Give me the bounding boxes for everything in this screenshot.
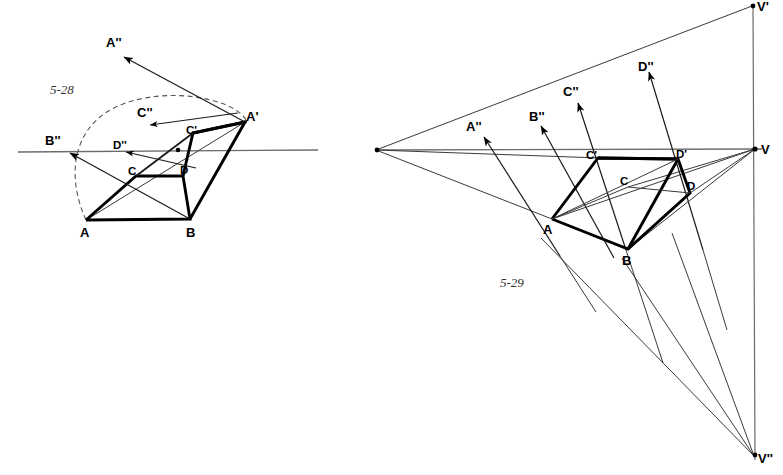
ray-Ddprime-extension bbox=[703, 250, 727, 330]
label-A-dprime-left: A'' bbox=[106, 35, 122, 50]
label-D-prime-right: D' bbox=[676, 148, 687, 160]
vanishing-point-Vdprime-dot bbox=[753, 453, 758, 458]
label-A-prime-left: A' bbox=[246, 109, 258, 124]
label-V-dprime: V'' bbox=[758, 451, 773, 466]
label-D-left: D bbox=[180, 164, 188, 176]
figure-5-28-group: A B C D A' C' A'' B'' C'' D'' 5-28 bbox=[18, 35, 318, 240]
figure-number-5-28: 5-28 bbox=[50, 82, 74, 97]
label-C-dprime-left: C'' bbox=[137, 105, 153, 120]
label-C-prime-left: C' bbox=[186, 124, 197, 136]
label-C-left: C bbox=[128, 165, 136, 177]
converge-B-to-Vdprime bbox=[622, 258, 754, 456]
converge-leftVP-to-Cprime bbox=[376, 150, 600, 158]
converge-A-to-Vdprime bbox=[541, 238, 754, 456]
label-C-right: C bbox=[620, 175, 628, 187]
face-B-Ap-Cp-D bbox=[183, 122, 245, 219]
figure-5-29-group: A B C D C' D' A'' B'' C'' D'' V V' V'' 5… bbox=[375, 0, 773, 466]
horizon-line-right bbox=[376, 149, 762, 150]
label-V: V bbox=[761, 142, 770, 157]
label-C-dprime-right: C'' bbox=[563, 84, 579, 99]
label-V-prime: V' bbox=[757, 0, 769, 14]
vanishing-point-V-dot bbox=[752, 146, 757, 151]
label-B-dprime-right: B'' bbox=[529, 109, 545, 124]
base-polygon-ABDC bbox=[86, 176, 190, 220]
converge-leftVP-to-A bbox=[376, 150, 552, 219]
figure-sheet: A B C D A' C' A'' B'' C'' D'' 5-28 bbox=[0, 0, 783, 475]
label-A-left: A bbox=[80, 225, 90, 240]
label-D-dprime-right: D'' bbox=[638, 59, 654, 74]
label-A-right: A bbox=[543, 222, 553, 237]
vanishing-point-Vprime-dot bbox=[751, 4, 756, 9]
label-C-prime-right: C' bbox=[586, 149, 597, 161]
converge-D-to-Vdprime bbox=[672, 233, 754, 456]
center-dot-left bbox=[176, 148, 181, 153]
plan-edge-A-Dprime bbox=[552, 159, 678, 219]
label-B-right: B bbox=[622, 253, 631, 268]
label-D-right: D bbox=[687, 180, 695, 192]
vanishing-point-left-dot bbox=[375, 148, 380, 153]
ray-Adprime-extension bbox=[560, 256, 596, 312]
edge-Cprime-Dprime bbox=[598, 158, 678, 159]
edge-Cp-Ap bbox=[193, 122, 245, 133]
label-B-dprime-left: B'' bbox=[45, 133, 61, 148]
label-A-dprime-right: A'' bbox=[466, 119, 482, 134]
converge-leftVP-to-Vprime bbox=[376, 6, 752, 150]
figure-number-5-29: 5-29 bbox=[500, 275, 524, 290]
converge-V-to-B bbox=[628, 149, 755, 249]
ray-Cdprime-extension bbox=[626, 250, 663, 363]
label-D-dprime-left: D'' bbox=[113, 139, 127, 151]
edge-B-to-Dprime bbox=[628, 159, 678, 249]
converge-V-to-D bbox=[690, 149, 755, 193]
diagrams-svg: A B C D A' C' A'' B'' C'' D'' 5-28 bbox=[0, 0, 783, 475]
vertical-measuring-line bbox=[753, 5, 755, 460]
label-B-left: B bbox=[186, 225, 195, 240]
